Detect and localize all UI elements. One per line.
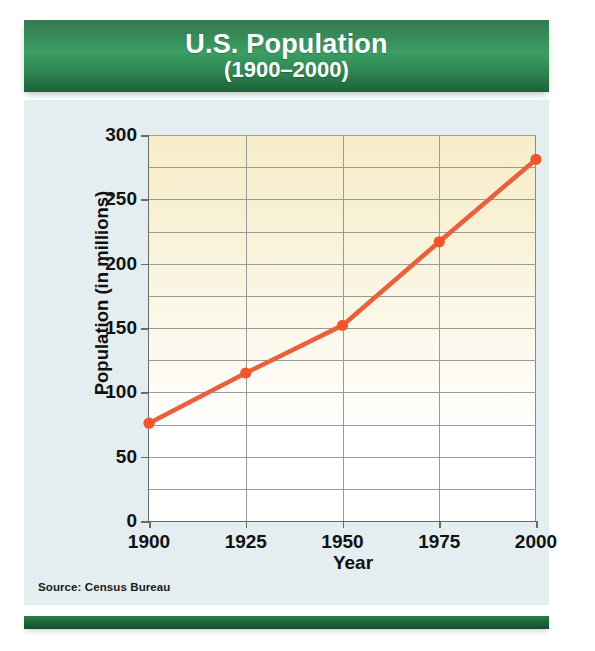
data-point-marker: 1900: 76 — [143, 418, 154, 429]
y-tick-label: 150 — [105, 317, 137, 339]
x-tick-label: 2000 — [515, 531, 557, 553]
y-tick-label: 300 — [105, 124, 137, 146]
y-tick-label: 50 — [116, 446, 137, 468]
y-tick-mark — [141, 264, 149, 266]
y-tick-label: 100 — [105, 381, 137, 403]
data-point-marker: 2000: 281 — [530, 154, 541, 165]
x-tick-mark — [536, 521, 538, 528]
x-tick-mark — [246, 521, 248, 528]
y-tick-label: 250 — [105, 188, 137, 210]
gridline-vertical — [439, 135, 440, 521]
x-tick-label: 1950 — [321, 531, 363, 553]
chart-subtitle: (1900–2000) — [224, 58, 349, 81]
gridline-vertical — [343, 135, 344, 521]
y-tick-mark — [141, 392, 149, 394]
population-chart-figure: U.S. Population (1900–2000) Population (… — [0, 0, 595, 651]
y-tick-label: 0 — [126, 510, 137, 532]
gridline-vertical — [246, 135, 247, 521]
x-tick-mark — [149, 521, 151, 528]
y-tick-mark — [141, 199, 149, 201]
plot-area: 05010015020025030019001925195019752000 1… — [148, 135, 536, 522]
x-axis-title: Year — [148, 552, 558, 574]
x-tick-mark — [439, 521, 441, 528]
x-tick-label: 1900 — [128, 531, 170, 553]
y-tick-label: 200 — [105, 253, 137, 275]
y-tick-mark — [141, 521, 149, 523]
x-tick-label: 1975 — [418, 531, 460, 553]
x-tick-mark — [343, 521, 345, 528]
chart-title-banner: U.S. Population (1900–2000) — [24, 20, 549, 92]
y-tick-mark — [141, 457, 149, 459]
source-note: Source: Census Bureau — [38, 581, 170, 593]
y-tick-mark — [141, 135, 149, 137]
y-tick-mark — [141, 328, 149, 330]
footer-bar — [24, 616, 549, 629]
x-tick-label: 1925 — [225, 531, 267, 553]
chart-title: U.S. Population — [185, 31, 388, 59]
chart-panel: Population (in millions) Year Source: Ce… — [24, 100, 549, 605]
